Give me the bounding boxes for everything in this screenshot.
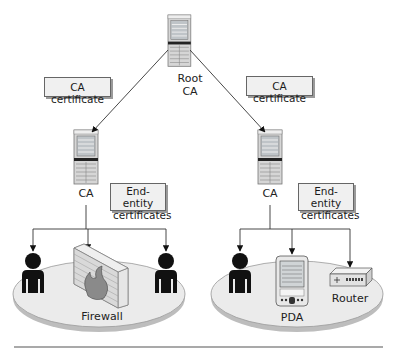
root-ca-label-line1: Root <box>168 72 212 85</box>
root-ca-label-line2: CA <box>168 85 212 98</box>
left-ca-server-icon <box>74 130 98 184</box>
router-label: Router <box>328 292 372 305</box>
pda-label: PDA <box>270 311 314 324</box>
left-end-entity-certificates-label: End-entity certificates <box>110 183 166 211</box>
right-user-icon <box>229 253 251 293</box>
pki-hierarchy-diagram: Root CA CA certificate CA certificate CA… <box>0 0 400 358</box>
router-icon <box>330 268 372 286</box>
right-ca-certificate-label: CA certificate <box>246 76 313 96</box>
right-ca-label: CA <box>254 187 286 200</box>
left-ca-label: CA <box>70 187 102 200</box>
pda-icon <box>276 256 308 306</box>
firewall-label: Firewall <box>74 310 130 323</box>
right-end-entity-certificates-label: End-entity certificates <box>298 183 354 211</box>
right-ca-server-icon <box>258 130 282 184</box>
root-ca-server-icon <box>168 15 191 66</box>
left-user-1-icon <box>22 253 44 293</box>
left-user-2-icon <box>155 253 177 293</box>
root-ca-label: Root CA <box>168 72 212 98</box>
left-ca-certificate-label: CA certificate <box>44 77 111 97</box>
